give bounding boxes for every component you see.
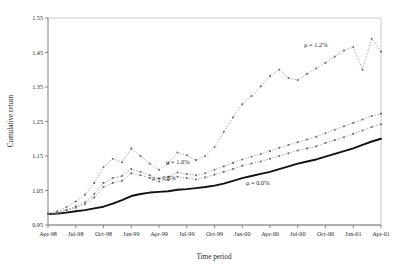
data-point bbox=[241, 165, 243, 167]
data-point bbox=[130, 147, 132, 149]
data-point bbox=[352, 46, 354, 48]
x-tick-label: Jul-99 bbox=[179, 230, 194, 237]
y-tick-label: 0.95 bbox=[32, 221, 43, 228]
axes bbox=[48, 18, 381, 225]
data-point bbox=[315, 145, 317, 147]
data-point bbox=[371, 115, 373, 117]
data-point bbox=[186, 177, 188, 179]
data-point bbox=[334, 56, 336, 58]
data-point bbox=[56, 210, 58, 212]
data-point bbox=[176, 176, 178, 178]
data-point bbox=[297, 79, 299, 81]
data-point bbox=[260, 160, 262, 162]
data-point bbox=[361, 69, 363, 71]
data-point bbox=[269, 150, 271, 152]
data-point bbox=[149, 163, 151, 165]
y-tick-label: 1.05 bbox=[32, 187, 43, 194]
data-point bbox=[306, 147, 308, 149]
data-point bbox=[139, 174, 141, 176]
data-point bbox=[176, 172, 178, 174]
data-point bbox=[287, 77, 289, 79]
series-label: μ = 1.2% bbox=[304, 41, 328, 48]
x-tick-label: Apr-01 bbox=[372, 230, 390, 237]
data-point bbox=[297, 149, 299, 151]
data-point bbox=[241, 158, 243, 160]
data-point bbox=[269, 158, 271, 160]
data-point bbox=[343, 125, 345, 127]
x-axis-ticks: Apr-98Jul-98Oct-98Jan-99Apr-99Jul-99Oct-… bbox=[39, 225, 390, 237]
series-annotations: μ = 1.2%μ = 1.0%μ = 0.8%μ = 0.0% bbox=[152, 41, 328, 186]
series-label: μ = 1.0% bbox=[166, 158, 190, 165]
data-point bbox=[204, 176, 206, 178]
x-tick-label: Jul-00 bbox=[290, 230, 305, 237]
data-point bbox=[149, 177, 151, 179]
data-point bbox=[269, 75, 271, 77]
data-point bbox=[130, 168, 132, 170]
data-point bbox=[75, 205, 77, 207]
x-tick-label: Apr-98 bbox=[39, 230, 57, 237]
data-point bbox=[306, 138, 308, 140]
x-tick-label: Apr-00 bbox=[261, 230, 279, 237]
data-point bbox=[361, 118, 363, 120]
data-point bbox=[334, 139, 336, 141]
data-point bbox=[93, 193, 95, 195]
data-point bbox=[250, 156, 252, 158]
series-line-mu-0-0- bbox=[48, 139, 381, 214]
data-point bbox=[112, 177, 114, 179]
data-point bbox=[204, 172, 206, 174]
data-point bbox=[334, 129, 336, 131]
data-point bbox=[112, 182, 114, 184]
data-point bbox=[260, 85, 262, 87]
series-layer bbox=[47, 38, 382, 215]
data-point bbox=[278, 155, 280, 157]
data-point bbox=[241, 103, 243, 105]
chart-container: 0.951.051.151.251.351.451.55 Apr-98Jul-9… bbox=[0, 0, 404, 264]
data-point bbox=[65, 209, 67, 211]
data-point bbox=[130, 172, 132, 174]
data-point bbox=[371, 126, 373, 128]
y-tick-label: 1.15 bbox=[32, 152, 43, 159]
data-point bbox=[278, 147, 280, 149]
data-point bbox=[380, 123, 382, 125]
series-line-mu-1-0- bbox=[48, 114, 381, 214]
data-point bbox=[149, 174, 151, 176]
data-point bbox=[352, 133, 354, 135]
x-tick-label: Oct-00 bbox=[317, 230, 334, 237]
data-point bbox=[250, 95, 252, 97]
data-point bbox=[139, 171, 141, 173]
data-point bbox=[232, 116, 234, 118]
data-point bbox=[223, 171, 225, 173]
data-point bbox=[186, 154, 188, 156]
data-point bbox=[213, 146, 215, 148]
data-point bbox=[121, 175, 123, 177]
y-axis-title: Cumulative return bbox=[7, 94, 15, 147]
data-point bbox=[176, 152, 178, 154]
data-point bbox=[278, 69, 280, 71]
x-tick-label: Oct-98 bbox=[95, 230, 112, 237]
data-point bbox=[47, 212, 49, 214]
data-point bbox=[380, 113, 382, 115]
data-point bbox=[213, 169, 215, 171]
data-point bbox=[287, 152, 289, 154]
data-point bbox=[65, 206, 67, 208]
y-tick-label: 1.25 bbox=[32, 118, 43, 125]
data-point bbox=[195, 159, 197, 161]
data-point bbox=[121, 180, 123, 182]
data-point bbox=[84, 201, 86, 203]
data-point bbox=[93, 182, 95, 184]
data-point bbox=[195, 178, 197, 180]
data-point bbox=[371, 38, 373, 40]
data-point bbox=[186, 173, 188, 175]
data-point bbox=[232, 162, 234, 164]
data-point bbox=[75, 200, 77, 202]
x-tick-label: Jan-01 bbox=[345, 230, 362, 237]
plot-frame bbox=[48, 18, 381, 225]
data-point bbox=[324, 142, 326, 144]
data-point bbox=[250, 163, 252, 165]
data-point bbox=[223, 131, 225, 133]
data-point bbox=[139, 155, 141, 157]
data-point bbox=[93, 196, 95, 198]
data-point bbox=[324, 62, 326, 64]
data-point bbox=[315, 67, 317, 69]
data-point bbox=[195, 174, 197, 176]
